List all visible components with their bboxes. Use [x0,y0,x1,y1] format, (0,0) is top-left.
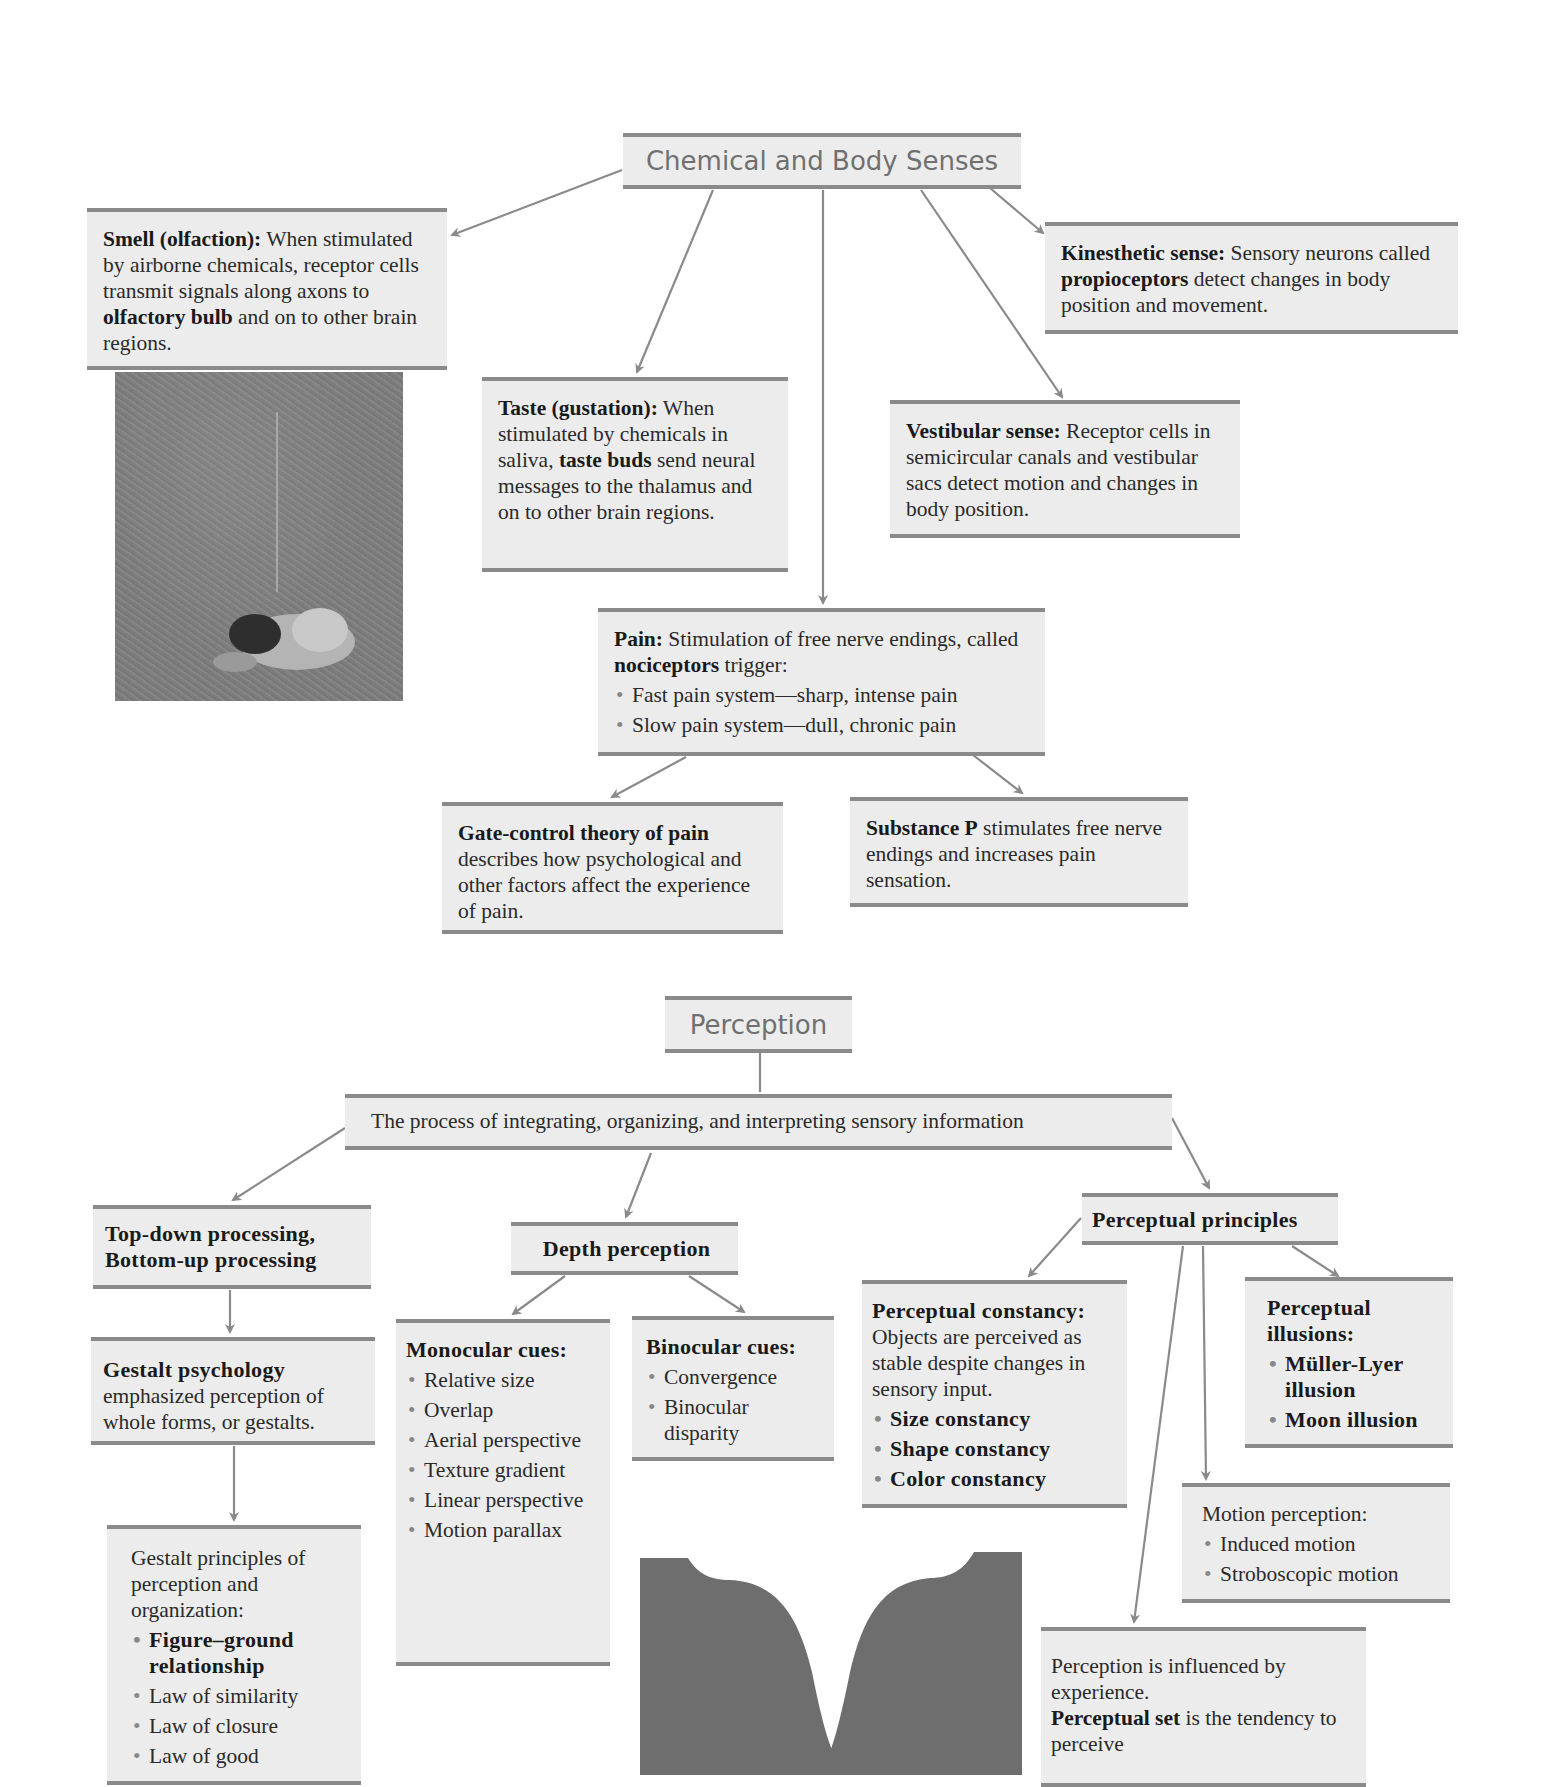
smell-heading: Smell (olfaction): [103,227,261,251]
fast-pain-item: Fast pain system—sharp, intense pain [614,682,1031,708]
taste-box: Taste (gustation): When stimulated by ch… [482,377,788,572]
stroboscopic-motion-item: Stroboscopic motion [1202,1561,1442,1587]
constancy-heading: Perceptual constancy: [872,1298,1085,1323]
gestalt-principles-intro: Gestalt principles of perception and org… [131,1545,351,1623]
binocular-disparity-item: Binocular disparity [646,1394,826,1446]
binocular-list: Convergence Binocular disparity [646,1364,826,1446]
constancy-text: Objects are perceived as stable despite … [872,1325,1085,1401]
binocular-heading: Binocular cues: [646,1334,826,1360]
gestalt-principles-box: Gestalt principles of perception and org… [107,1525,361,1785]
illusions-heading: Perceptual illusions: [1267,1295,1445,1347]
gate-control-box: Gate-control theory of pain describes ho… [442,802,783,934]
overlap-item: Overlap [406,1397,602,1423]
binocular-cues-box: Binocular cues: Convergence Binocular di… [632,1316,834,1461]
vestibular-box: Vestibular sense: Receptor cells in semi… [890,400,1240,538]
monocular-list: Relative size Overlap Aerial perspective… [406,1367,602,1543]
olfactory-bulb-term: olfactory bulb [103,305,233,329]
gate-control-text: describes how psychological and other fa… [458,847,750,923]
pain-text: Stimulation of free nerve endings, calle… [663,627,1018,651]
law-of-good-item: Law of good [131,1743,351,1769]
moon-illusion-item: Moon illusion [1267,1407,1445,1433]
pain-systems-list: Fast pain system—sharp, intense pain Slo… [614,682,1031,738]
law-of-similarity-item: Law of similarity [131,1683,351,1709]
gestalt-principles-list: Figure–ground relationship Law of simila… [131,1627,351,1769]
substance-p-box: Substance P stimulates free nerve ending… [850,797,1188,907]
slow-pain-item: Slow pain system—dull, chronic pain [614,712,1031,738]
pain-text-end: trigger: [719,653,788,677]
gestalt-psychology-box: Gestalt psychology emphasized perception… [91,1337,375,1445]
perceptual-constancy-box: Perceptual constancy: Objects are percei… [862,1280,1127,1508]
motion-list: Induced motion Stroboscopic motion [1202,1531,1442,1587]
monocular-heading: Monocular cues: [406,1337,602,1363]
person-figure-icon [115,372,403,701]
induced-motion-item: Induced motion [1202,1531,1442,1557]
top-down-label: Top-down processing, [105,1221,361,1247]
right-face-silhouette [824,1552,1022,1775]
law-of-closure-item: Law of closure [131,1713,351,1739]
left-face-silhouette [640,1558,840,1775]
motion-perception-box: Motion perception: Induced motion Strobo… [1182,1483,1450,1603]
substance-p-heading: Substance P [866,816,978,840]
perceptual-principles-box: Perceptual principles [1082,1193,1338,1245]
pain-box: Pain: Stimulation of free nerve endings,… [598,608,1045,756]
experience-text: Perception is influenced by experience. [1051,1654,1286,1704]
texture-gradient-item: Texture gradient [406,1457,602,1483]
perceptual-set-box: Perception is influenced by experience. … [1041,1627,1366,1787]
shape-constancy-item: Shape constancy [872,1436,1119,1462]
muller-lyer-item: Müller-Lyer illusion [1267,1351,1445,1403]
size-constancy-item: Size constancy [872,1406,1119,1432]
bottom-up-label: Bottom-up processing [105,1247,361,1273]
motion-parallax-item: Motion parallax [406,1517,602,1543]
relative-size-item: Relative size [406,1367,602,1393]
convergence-item: Convergence [646,1364,826,1390]
depth-perception-box: Depth perception [511,1222,738,1275]
taste-heading: Taste (gustation): [498,396,658,420]
top-down-bottom-up-box: Top-down processing, Bottom-up processin… [93,1205,371,1289]
perception-definition: The process of integrating, organizing, … [371,1109,1024,1133]
propioceptors-term: propioceptors [1061,267,1188,291]
color-constancy-item: Color constancy [872,1466,1119,1492]
gestalt-psychology-text: emphasized perception of whole forms, or… [103,1384,324,1434]
perceptual-set-term: Perceptual set [1051,1706,1180,1730]
chemical-senses-title: Chemical and Body Senses [623,133,1021,189]
perception-definition-box: The process of integrating, organizing, … [345,1094,1172,1150]
motion-heading: Motion perception: [1202,1501,1442,1527]
vestibular-heading: Vestibular sense: [906,419,1061,443]
depth-perception-label: Depth perception [543,1236,711,1261]
pain-heading: Pain: [614,627,663,651]
nociceptors-term: nociceptors [614,653,719,677]
faces-vase-illusion-image [640,1552,1022,1775]
kinesthetic-box: Kinesthetic sense: Sensory neurons calle… [1045,222,1458,334]
illusions-list: Müller-Lyer illusion Moon illusion [1267,1351,1445,1433]
constancy-list: Size constancy Shape constancy Color con… [872,1406,1119,1492]
monocular-cues-box: Monocular cues: Relative size Overlap Ae… [396,1319,610,1666]
smell-box: Smell (olfaction): When stimulated by ai… [87,208,447,370]
aerial-perspective-item: Aerial perspective [406,1427,602,1453]
figure-ground-item: Figure–ground relationship [131,1627,351,1679]
linear-perspective-item: Linear perspective [406,1487,602,1513]
taste-buds-term: taste buds [559,448,652,472]
kinesthetic-text: Sensory neurons called [1225,241,1430,265]
gate-control-heading: Gate-control theory of pain [458,821,709,845]
person-smelling-grass-photo [115,372,403,701]
perceptual-principles-label: Perceptual principles [1092,1207,1298,1232]
gestalt-psychology-heading: Gestalt psychology [103,1357,285,1382]
perceptual-illusions-box: Perceptual illusions: Müller-Lyer illusi… [1245,1277,1453,1448]
kinesthetic-heading: Kinesthetic sense: [1061,241,1225,265]
perception-title: Perception [665,996,852,1053]
